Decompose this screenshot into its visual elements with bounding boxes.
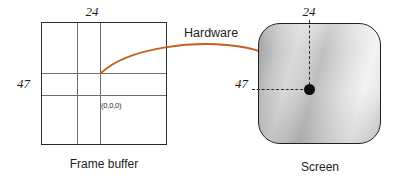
screen-device [258,23,381,144]
screen-column-label: 24 [303,4,316,20]
framebuffer-origin-cell-label: (0,0,0) [101,101,121,110]
grid-vertical-line [100,23,101,144]
screen-vertical-guide [309,20,310,90]
framebuffer-caption: Frame buffer [70,157,138,171]
grid-horizontal-line [42,73,166,74]
hardware-arrow-label: Hardware [184,26,238,40]
screen-pixel-dot [304,84,315,95]
screen-sheen-overlay [259,24,380,143]
grid-vertical-line [77,23,78,144]
diagram-canvas: 24 47 (0,0,0) Frame buffer Hardware 24 4… [0,0,401,185]
screen-caption: Screen [301,160,339,174]
framebuffer-row-label: 47 [17,76,30,92]
framebuffer-grid: (0,0,0) [41,22,167,145]
grid-horizontal-line [42,95,166,96]
framebuffer-column-label: 24 [86,4,99,20]
screen-horizontal-guide [252,89,308,90]
screen-row-label: 47 [235,76,248,92]
